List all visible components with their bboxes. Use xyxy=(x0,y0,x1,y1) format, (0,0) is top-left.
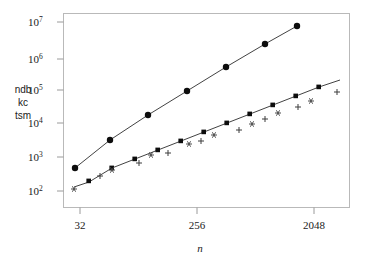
series-tsm-plus-point xyxy=(236,127,242,133)
y-axis-ticks xyxy=(57,22,64,191)
series-label-tsm: tsm xyxy=(15,110,31,121)
series-kc-point xyxy=(178,139,183,144)
series-kc-point xyxy=(132,157,137,162)
series-tsm-plus-point xyxy=(334,89,340,95)
x-axis-label: n xyxy=(197,242,203,254)
series-ndb xyxy=(72,23,300,171)
x-axis-ticks xyxy=(80,208,314,215)
series-kc-point xyxy=(224,121,229,126)
series-tsm-point xyxy=(275,110,281,115)
series-tsm-point xyxy=(249,121,255,126)
series-kc-point xyxy=(155,148,160,153)
series-ndb-point xyxy=(72,165,78,171)
series-tsm-point xyxy=(186,141,192,146)
x-tick-label-256: 256 xyxy=(189,219,206,231)
series-ndb-point xyxy=(262,41,268,47)
series-kc-point xyxy=(86,179,91,184)
series-ndb-point xyxy=(184,88,190,94)
series-ndb-point xyxy=(145,112,151,118)
series-tsm-plus-point xyxy=(262,116,268,122)
series-tsm-asterisks xyxy=(71,98,314,191)
series-tsm-point xyxy=(308,98,314,103)
y-tick-label-1e6: 106 xyxy=(28,52,43,65)
series-tsm-point xyxy=(211,132,217,137)
series-kc-point xyxy=(201,130,206,135)
y-tick-label-1e3: 103 xyxy=(28,150,43,163)
y-axis-series-label-block: ndb kc tsm xyxy=(15,84,32,121)
series-kc-point xyxy=(270,103,275,108)
y-axis-tick-labels: 107 106 105 104 103 102 xyxy=(28,15,43,197)
series-tsm-point xyxy=(71,186,77,191)
series-kc-point xyxy=(316,85,321,90)
x-tick-label-2048: 2048 xyxy=(303,219,326,231)
series-kc-point xyxy=(247,112,252,117)
x-axis-tick-labels: 32 256 2048 xyxy=(75,219,326,231)
series-ndb-point xyxy=(294,23,300,29)
series-kc xyxy=(74,80,340,187)
x-tick-label-32: 32 xyxy=(75,219,86,231)
series-kc-line xyxy=(74,80,340,187)
chart-container: 107 106 105 104 103 102 ndb kc tsm 32 25… xyxy=(0,0,365,265)
series-tsm-plus-point xyxy=(295,104,301,110)
series-ndb-point xyxy=(223,64,229,70)
series-kc-point xyxy=(293,94,298,99)
y-tick-label-1e2: 102 xyxy=(28,184,43,197)
series-ndb-point xyxy=(107,137,113,143)
series-tsm-plus xyxy=(97,89,340,179)
plot-frame xyxy=(64,14,350,208)
log-log-plot: 107 106 105 104 103 102 ndb kc tsm 32 25… xyxy=(0,0,365,265)
series-label-kc: kc xyxy=(18,97,28,108)
series-tsm-plus-point xyxy=(198,138,204,144)
series-tsm-plus-point xyxy=(165,150,171,156)
series-ndb-line xyxy=(75,26,297,168)
series-label-ndb: ndb xyxy=(15,84,32,95)
y-tick-label-1e7: 107 xyxy=(28,15,43,28)
